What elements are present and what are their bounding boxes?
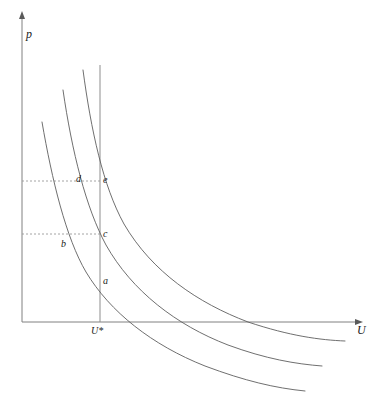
point-label-a: a [103, 276, 108, 286]
u-star-tick-label: U* [91, 326, 103, 336]
indifference-curve-low [42, 122, 305, 391]
x-axis-label: U [357, 324, 366, 336]
point-label-e: e [103, 175, 107, 185]
y-axis-label: p [26, 28, 32, 40]
figure-canvas [0, 0, 377, 402]
point-label-c: c [103, 229, 107, 239]
figure-root: p U U* a b c d e [0, 0, 377, 402]
indifference-curve-high [83, 70, 345, 341]
point-label-d: d [76, 174, 81, 184]
point-label-b: b [61, 239, 66, 249]
y-axis-arrow-icon [19, 11, 25, 19]
